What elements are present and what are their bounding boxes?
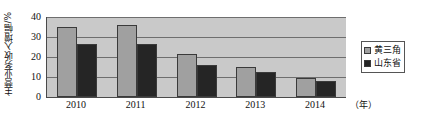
bar — [256, 72, 276, 97]
x-tick-label: 2010 — [66, 99, 86, 111]
bar — [117, 25, 137, 97]
plot-area — [46, 17, 346, 98]
chart-figure: 主营业务收入增幅/% 010203040 2010201120122013201… — [0, 0, 432, 129]
legend-swatch-icon — [364, 60, 371, 67]
bar — [296, 78, 316, 97]
bar — [77, 44, 97, 97]
bar — [197, 65, 217, 97]
y-axis-tick-labels: 010203040 — [16, 0, 45, 108]
legend-item: 山东省 — [364, 57, 401, 70]
legend-swatch-icon — [364, 47, 371, 54]
bar — [177, 54, 197, 97]
x-tick-label: 2012 — [186, 99, 206, 111]
bar-group — [236, 17, 276, 97]
bars-layer — [47, 17, 346, 97]
bar-group — [177, 17, 217, 97]
legend-label: 黄三角 — [374, 46, 401, 55]
y-axis-title: 主营业务收入增幅/% — [0, 0, 16, 108]
bar — [316, 81, 336, 97]
chart-legend: 黄三角山东省 — [361, 41, 405, 73]
y-tick-label: 0 — [36, 92, 41, 102]
bar — [57, 27, 77, 97]
bar-group — [57, 17, 97, 97]
y-axis-title-text: 主营业务收入增幅/% — [4, 12, 13, 96]
legend-label: 山东省 — [374, 59, 401, 68]
legend-item: 黄三角 — [364, 44, 401, 57]
x-tick-label: 2011 — [126, 99, 146, 111]
y-tick-label: 10 — [31, 72, 41, 82]
x-axis-tick-labels: 20102011201220132014 — [46, 99, 345, 115]
x-tick-label: 2014 — [305, 99, 325, 111]
x-tick-label: 2013 — [245, 99, 265, 111]
bar-group — [296, 17, 336, 97]
bar — [236, 67, 256, 97]
y-tick-label: 30 — [31, 32, 41, 42]
x-axis-unit-label: （年） — [350, 99, 377, 111]
y-tick-label: 40 — [31, 12, 41, 22]
bar-group — [117, 17, 157, 97]
bar — [137, 44, 157, 97]
y-tick-label: 20 — [31, 52, 41, 62]
